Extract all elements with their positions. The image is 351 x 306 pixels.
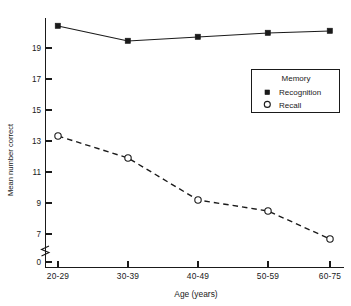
legend-title: Memory	[282, 74, 311, 83]
x-tick-label-60-75: 60-75	[319, 271, 342, 281]
y-tick-label-7: 7	[36, 230, 41, 239]
recognition-point-40-49	[195, 34, 200, 39]
recognition-line	[58, 26, 330, 41]
y-tick-label-17: 17	[32, 75, 42, 84]
y-tick-label-19: 19	[32, 44, 42, 53]
x-axis-title: Age (years)	[174, 289, 217, 299]
recognition-point-60-75	[327, 28, 332, 33]
recognition-point-30-39	[125, 38, 130, 43]
y-tick-label-15: 15	[32, 106, 42, 115]
recall-point-50-59	[265, 208, 271, 214]
legend-marker-recall-icon	[264, 101, 270, 107]
legend-label-recall: Recall	[279, 101, 301, 110]
y-tick-label-11: 11	[33, 168, 42, 177]
y-axis-break-icon	[42, 246, 50, 256]
recognition-point-50-59	[265, 30, 270, 35]
recall-point-40-49	[195, 197, 201, 203]
y-tick-label-9: 9	[36, 199, 41, 208]
recall-point-20-29	[55, 133, 61, 139]
y-axis-title: Mean number correct	[6, 123, 15, 196]
legend: Memory Recognition Recall	[252, 70, 340, 113]
legend-marker-recognition-icon	[265, 90, 270, 95]
recall-point-30-39	[125, 155, 131, 161]
series-recall	[55, 133, 333, 242]
y-tick-label-0: 0	[36, 258, 41, 267]
chart-figure: 19 17 15 13 11 9 7 0 20-29 30-39 40-49 5…	[0, 0, 351, 306]
x-tick-label-50-59: 50-59	[257, 271, 280, 281]
series-recognition	[55, 23, 332, 43]
x-tick-label-40-49: 40-49	[187, 271, 210, 281]
x-tick-label-30-39: 30-39	[117, 271, 140, 281]
y-tick-label-13: 13	[32, 137, 42, 146]
recall-line	[58, 136, 330, 239]
recognition-point-20-29	[55, 23, 60, 28]
legend-label-recognition: Recognition	[279, 88, 321, 97]
recall-point-60-75	[327, 236, 333, 242]
x-tick-label-20-29: 20-29	[47, 271, 70, 281]
y-axis-ticks	[46, 48, 53, 262]
memory-by-age-line-chart: 19 17 15 13 11 9 7 0 20-29 30-39 40-49 5…	[0, 0, 351, 306]
x-axis-ticks	[58, 261, 330, 268]
